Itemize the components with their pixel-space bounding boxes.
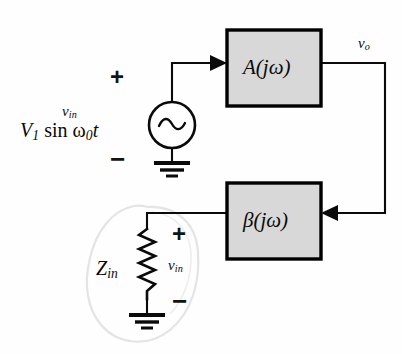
- source-input-voltage-symbol: v: [62, 103, 69, 119]
- source-plus-sign: +: [110, 65, 124, 89]
- forward-gain-block-label: A(jω): [243, 57, 290, 78]
- source-time-symbol: t: [93, 119, 99, 141]
- source-expression-label: V1 sin ω0t: [20, 120, 98, 143]
- output-voltage-symbol: v: [358, 35, 365, 51]
- feedback-block-label: β(jω): [243, 210, 288, 231]
- input-impedance-subscript: in: [107, 266, 118, 281]
- feedback-input-voltage-subscript: in: [175, 263, 183, 274]
- source-omega-subscript: 0: [86, 128, 93, 143]
- ground-symbol-source: [154, 163, 190, 176]
- wire-forward-to-feedback: [321, 63, 385, 213]
- source-sin-text: sin: [44, 119, 67, 141]
- output-voltage-subscript: o: [365, 41, 370, 52]
- zin-plus-sign: +: [172, 222, 186, 246]
- zin-minus-sign: −: [172, 288, 187, 314]
- input-impedance-symbol: Z: [96, 257, 107, 279]
- source-input-voltage-label: vin: [62, 104, 77, 120]
- ground-symbol-zin: [129, 315, 165, 328]
- arrow-into-feedback-block: [321, 205, 338, 221]
- feedback-amplifier-diagram: A(jω) β(jω) vo vin V1 sin ω0t + − Zin vi…: [0, 0, 402, 354]
- feedback-input-voltage-symbol: v: [168, 257, 175, 273]
- feedback-input-voltage-label: vin: [168, 258, 183, 274]
- forward-gain-block-label-text: A(jω): [243, 55, 290, 79]
- input-impedance-resistor: [139, 229, 155, 299]
- output-voltage-label: vo: [358, 36, 370, 52]
- input-impedance-label: Zin: [96, 258, 118, 281]
- arrow-into-forward-block: [210, 55, 227, 71]
- source-minus-sign: −: [110, 146, 125, 172]
- source-amplitude-symbol: V: [20, 119, 32, 141]
- circuit-canvas: [0, 0, 402, 354]
- feedback-block-label-text: β(jω): [243, 208, 288, 232]
- source-omega-symbol: ω: [73, 119, 86, 141]
